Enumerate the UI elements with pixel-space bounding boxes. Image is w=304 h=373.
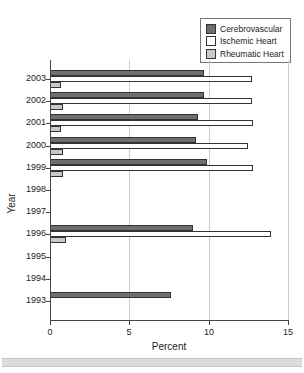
y-tick-label-1999: 1999 bbox=[16, 162, 46, 173]
x-tick-10 bbox=[209, 321, 210, 325]
legend-item-cerebrovascular: Cerebrovascular bbox=[206, 23, 286, 34]
bottom-gray-strip bbox=[2, 358, 302, 367]
bar-ischemic-1999 bbox=[50, 165, 253, 171]
x-tick-label-10: 10 bbox=[204, 327, 214, 337]
y-tick-1998 bbox=[46, 190, 50, 191]
bar-rheumatic-2001 bbox=[50, 126, 61, 132]
y-axis-line bbox=[50, 60, 51, 321]
bar-ischemic-2002 bbox=[50, 98, 252, 104]
x-tick-label-15: 15 bbox=[283, 327, 293, 337]
bar-rheumatic-2002 bbox=[50, 104, 63, 110]
bar-ischemic-2000 bbox=[50, 143, 248, 149]
bar-ischemic-2001 bbox=[50, 120, 253, 126]
y-tick-label-2001: 2001 bbox=[16, 117, 46, 128]
y-tick-2001 bbox=[46, 123, 50, 124]
y-tick-1993 bbox=[46, 301, 50, 302]
x-tick-5 bbox=[129, 321, 130, 325]
legend-swatch-ischemic-heart bbox=[206, 36, 216, 46]
y-tick-label-2002: 2002 bbox=[16, 95, 46, 106]
x-axis-title: Percent bbox=[50, 341, 288, 352]
y-tick-1994 bbox=[46, 279, 50, 280]
bar-rheumatic-2003 bbox=[50, 82, 61, 88]
y-tick-2002 bbox=[46, 101, 50, 102]
y-tick-1995 bbox=[46, 257, 50, 258]
plot-area bbox=[50, 60, 288, 320]
y-tick-1996 bbox=[46, 234, 50, 235]
x-axis-line bbox=[50, 320, 289, 321]
y-tick-1997 bbox=[46, 212, 50, 213]
legend-swatch-cerebrovascular bbox=[206, 24, 216, 34]
gridline-x-15 bbox=[288, 60, 289, 320]
y-tick-2003 bbox=[46, 79, 50, 80]
legend-label-rheumatic-heart: Rheumatic Heart bbox=[220, 49, 284, 59]
legend-item-ischemic-heart: Ischemic Heart bbox=[206, 36, 286, 47]
bar-rheumatic-1999 bbox=[50, 171, 63, 177]
y-tick-label-2003: 2003 bbox=[16, 73, 46, 84]
y-tick-label-1996: 1996 bbox=[16, 228, 46, 239]
bar-ischemic-1996 bbox=[50, 231, 271, 237]
bar-rheumatic-1996 bbox=[50, 237, 66, 243]
legend-swatch-rheumatic-heart bbox=[206, 49, 216, 59]
legend: Cerebrovascular Ischemic Heart Rheumatic… bbox=[200, 18, 291, 63]
x-tick-label-5: 5 bbox=[126, 327, 131, 337]
legend-item-rheumatic-heart: Rheumatic Heart bbox=[206, 48, 286, 59]
y-tick-label-1997: 1997 bbox=[16, 206, 46, 217]
y-tick-label-1994: 1994 bbox=[16, 273, 46, 284]
x-tick-0 bbox=[50, 321, 51, 325]
bar-rheumatic-2000 bbox=[50, 149, 63, 155]
x-tick-label-0: 0 bbox=[47, 327, 52, 337]
bar-ischemic-2003 bbox=[50, 76, 252, 82]
y-tick-label-2000: 2000 bbox=[16, 140, 46, 151]
legend-label-cerebrovascular: Cerebrovascular bbox=[220, 24, 282, 34]
y-tick-label-1995: 1995 bbox=[16, 251, 46, 262]
y-tick-label-1993: 1993 bbox=[16, 295, 46, 306]
legend-label-ischemic-heart: Ischemic Heart bbox=[220, 36, 277, 46]
y-axis-title: Year bbox=[6, 189, 17, 219]
figure: Cerebrovascular Ischemic Heart Rheumatic… bbox=[0, 0, 304, 373]
y-tick-2000 bbox=[46, 146, 50, 147]
y-tick-label-1998: 1998 bbox=[16, 184, 46, 195]
x-tick-15 bbox=[288, 321, 289, 325]
bar-cerebrovascular-1993 bbox=[50, 292, 171, 298]
y-tick-1999 bbox=[46, 168, 50, 169]
